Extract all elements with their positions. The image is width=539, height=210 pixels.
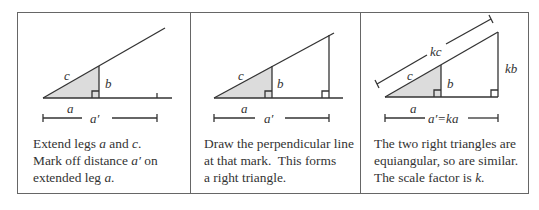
label-a-prime-eq-ka: a′=ka: [428, 111, 459, 126]
extended-hypotenuse-c: [214, 33, 334, 98]
label-kb: kb: [505, 61, 518, 76]
panel-1-figure: [43, 28, 172, 122]
panel-1-caption: Extend legs a and c. Mark off distance a…: [33, 135, 158, 186]
label-a: a: [241, 101, 248, 116]
extended-hypotenuse-c: [43, 28, 165, 98]
label-b: b: [105, 76, 112, 91]
panel-3-figure: [375, 15, 498, 122]
panel-3-caption: The two right triangles are equiangular,…: [374, 135, 518, 186]
label-c: c: [238, 68, 244, 83]
right-angle-mark-large: [322, 91, 329, 98]
label-a-prime: a′: [264, 111, 274, 126]
kc-dimension-end-right: [489, 15, 493, 23]
label-c: c: [64, 68, 70, 83]
label-a: a: [410, 101, 417, 116]
right-angle-mark-large: [491, 90, 498, 97]
panel-2-caption: Draw the perpendicular line at that mark…: [204, 135, 354, 186]
label-b: b: [447, 76, 454, 91]
label-a: a: [67, 101, 74, 116]
kc-dimension-end-left: [375, 80, 379, 88]
label-a-prime: a′: [90, 111, 100, 126]
label-c: c: [407, 68, 413, 83]
label-b: b: [277, 76, 284, 91]
label-kc: kc: [430, 44, 442, 59]
